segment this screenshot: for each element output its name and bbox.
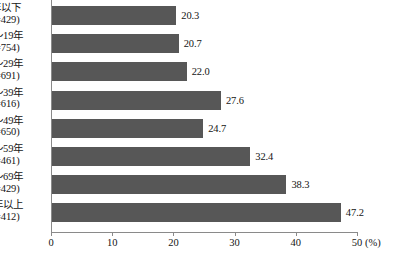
x-tick-mark <box>357 233 358 236</box>
bar <box>52 6 176 25</box>
x-tick-label: 50 <box>352 237 363 249</box>
category-label: 30〜39年(n=616) <box>0 87 48 110</box>
x-tick-label: 30 <box>229 237 240 249</box>
category-label-count: (n=754) <box>0 42 48 54</box>
category-label-count: (n=650) <box>0 126 48 138</box>
category-label-count: (n=461) <box>0 155 48 167</box>
category-label-range: 50〜59年 <box>0 143 48 155</box>
x-tick-label: 20 <box>168 237 179 249</box>
bar-value-label: 24.7 <box>208 119 226 138</box>
plot-area: 20.320.722.027.624.732.438.347.2 0102030… <box>51 0 357 232</box>
x-tick-label: 40 <box>291 237 302 249</box>
bar-value-label: 20.3 <box>181 6 199 25</box>
bar <box>52 203 341 222</box>
bar-value-label: 38.3 <box>291 175 309 194</box>
bar <box>52 34 179 53</box>
x-tick-mark <box>112 233 113 236</box>
x-tick-mark <box>296 233 297 236</box>
bar <box>52 147 250 166</box>
bar-value-label: 27.6 <box>226 91 244 110</box>
category-label-count: (n=412) <box>0 211 48 223</box>
bar-value-label: 47.2 <box>346 203 364 222</box>
bar <box>52 119 203 138</box>
category-label: 9年以下(n=429) <box>0 2 48 25</box>
category-label-count: (n=429) <box>0 183 48 195</box>
x-axis-line <box>51 232 358 233</box>
category-label-range: 70年以上 <box>0 199 48 211</box>
category-label: 40〜49年(n=650) <box>0 115 48 138</box>
category-label-range: 60〜69年 <box>0 171 48 183</box>
category-label-range: 9年以下 <box>0 2 48 14</box>
x-tick-label: 10 <box>107 237 118 249</box>
category-label-range: 10〜19年 <box>0 30 48 42</box>
x-tick-label: 0 <box>48 237 53 249</box>
category-label: 10〜19年(n=754) <box>0 30 48 53</box>
category-label-count: (n=429) <box>0 14 48 26</box>
x-axis-unit-label: (%) <box>365 237 381 249</box>
category-label: 60〜69年(n=429) <box>0 171 48 194</box>
bar-value-label: 22.0 <box>192 62 210 81</box>
bar-value-label: 32.4 <box>255 147 273 166</box>
category-label: 20〜29年(n=691) <box>0 58 48 81</box>
x-tick-mark <box>173 233 174 236</box>
bar <box>52 91 221 110</box>
x-tick-mark <box>51 233 52 236</box>
bar <box>52 62 187 81</box>
category-label-count: (n=691) <box>0 70 48 82</box>
category-label: 70年以上(n=412) <box>0 199 48 222</box>
category-label-count: (n=616) <box>0 98 48 110</box>
category-label: 50〜59年(n=461) <box>0 143 48 166</box>
bar-chart: 9年以下(n=429)10〜19年(n=754)20〜29年(n=691)30〜… <box>0 0 397 271</box>
bar-value-label: 20.7 <box>184 34 202 53</box>
x-tick-mark <box>235 233 236 236</box>
category-label-range: 40〜49年 <box>0 115 48 127</box>
bar <box>52 175 286 194</box>
category-label-range: 30〜39年 <box>0 87 48 99</box>
category-label-range: 20〜29年 <box>0 58 48 70</box>
